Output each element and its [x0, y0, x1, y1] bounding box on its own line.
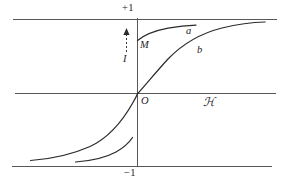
curve-a-lower-arm [31, 94, 138, 161]
magnetization-point-label: M [140, 40, 149, 51]
curve-a-label: a [186, 26, 191, 37]
current-axis-label: I [123, 54, 127, 65]
field-axis-label: ℋ [203, 96, 215, 108]
bottom-value-label: −1 [124, 168, 136, 179]
curve-b-label: b [197, 45, 202, 56]
current-arrow-head [123, 28, 129, 35]
plot-canvas [0, 0, 290, 184]
top-value-label: +1 [122, 3, 134, 14]
curve-b-lower-arm [76, 138, 133, 163]
curve-b-upper-arm [138, 22, 266, 94]
origin-label: O [141, 96, 149, 107]
magnetization-curve-figure: +1 −1 I M O ℋ a b [0, 0, 290, 184]
